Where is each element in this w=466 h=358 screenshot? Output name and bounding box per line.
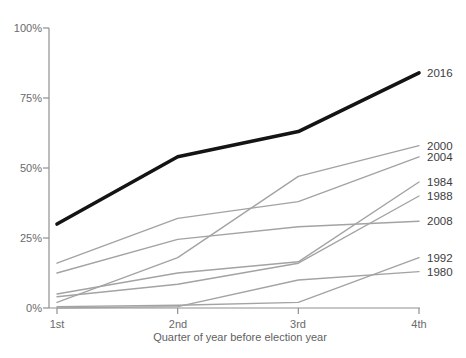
y-axis-tick-label-25: 25%	[0, 231, 42, 245]
y-axis-tick-label-0: 0%	[0, 301, 42, 315]
series-line-2016	[57, 73, 419, 224]
series-label-1988: 1988	[427, 190, 453, 202]
series-label-2004: 2004	[427, 151, 453, 163]
quarterly-line-chart: 20162000200419841988200819921980 100% 75…	[0, 0, 466, 358]
y-axis-tick-label-75: 75%	[0, 91, 42, 105]
x-axis-tick-label-2nd: 2nd	[156, 317, 200, 331]
x-axis-title: Quarter of year before election year	[60, 331, 420, 343]
series-label-2008: 2008	[427, 215, 453, 227]
series-line-2008	[57, 221, 419, 273]
series-label-1980: 1980	[427, 266, 453, 278]
series-label-1984: 1984	[427, 176, 453, 188]
x-axis-tick-label-1st: 1st	[35, 317, 79, 331]
x-axis-tick-label-3rd: 3rd	[276, 317, 320, 331]
y-axis-tick-label-50: 50%	[0, 161, 42, 175]
plot-canvas: 20162000200419841988200819921980	[0, 0, 466, 358]
series-label-2016: 2016	[427, 67, 453, 79]
series-label-2000: 2000	[427, 140, 453, 152]
y-axis-tick-label-100: 100%	[0, 21, 42, 35]
x-axis-tick-label-4th: 4th	[397, 317, 441, 331]
series-line-2004	[57, 157, 419, 263]
series-label-1992: 1992	[427, 252, 453, 264]
